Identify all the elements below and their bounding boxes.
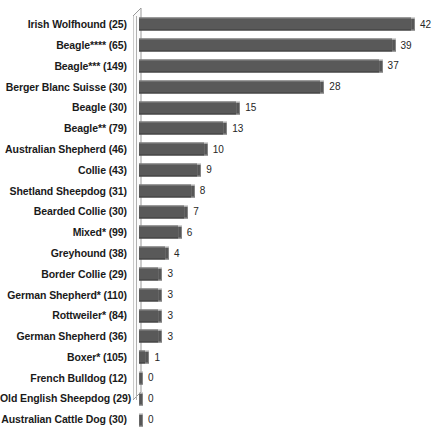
- bar-value-label: 0: [148, 394, 154, 404]
- chart-row: Shetland Sheepdog (31)8: [0, 180, 441, 201]
- bar[interactable]: [139, 330, 158, 343]
- bar-track: 42: [133, 14, 441, 35]
- bar-track: 0: [133, 388, 441, 409]
- bar-track: 28: [133, 76, 441, 97]
- bar[interactable]: [139, 39, 392, 52]
- bar-value-label: 42: [420, 19, 431, 29]
- bar-value-label: 8: [200, 186, 206, 196]
- chart-row: Border Collie (29)3: [0, 264, 441, 285]
- bar-track: 0: [133, 409, 441, 430]
- category-label: French Bulldog (12): [0, 373, 133, 384]
- category-label: Irish Wolfhound (25): [0, 19, 133, 30]
- chart-row: Mixed* (99)6: [0, 222, 441, 243]
- category-label: Shetland Sheepdog (31): [0, 186, 133, 197]
- bar-end-cap: [236, 101, 240, 114]
- category-label: Old English Sheepdog (29): [0, 393, 133, 404]
- category-label: Beagle** (79): [0, 123, 133, 134]
- category-label: Rottweiler* (84): [0, 310, 133, 321]
- category-label: Greyhound (38): [0, 248, 133, 259]
- bar-end-cap: [165, 247, 169, 260]
- bar[interactable]: [139, 143, 204, 156]
- category-label: Mixed* (99): [0, 227, 133, 238]
- bar-value-label: 39: [401, 40, 412, 50]
- bar[interactable]: [139, 351, 145, 364]
- bar[interactable]: [139, 184, 191, 197]
- bar-end-cap: [204, 143, 208, 156]
- bar-value-label: 6: [187, 227, 193, 237]
- bar-value-label: 7: [193, 207, 199, 217]
- bar[interactable]: [139, 309, 158, 322]
- bar-end-cap: [139, 392, 143, 405]
- bar-track: 7: [133, 201, 441, 222]
- bar-end-cap: [184, 205, 188, 218]
- bar-value-label: 37: [388, 61, 399, 71]
- bar[interactable]: [139, 205, 184, 218]
- category-label: Australian Shepherd (46): [0, 144, 133, 155]
- chart-row: Beagle (30)15: [0, 97, 441, 118]
- chart-row: Beagle** (79)13: [0, 118, 441, 139]
- bar[interactable]: [139, 18, 411, 31]
- bar-value-label: 0: [148, 415, 154, 425]
- chart-row: Berger Blanc Suisse (30)28: [0, 76, 441, 97]
- bar-track: 3: [133, 305, 441, 326]
- bar-track: 15: [133, 97, 441, 118]
- bar[interactable]: [139, 247, 165, 260]
- bar[interactable]: [139, 163, 197, 176]
- category-label: Boxer* (105): [0, 352, 133, 363]
- chart-row: Beagle**** (65)39: [0, 35, 441, 56]
- category-label: Bearded Collie (30): [0, 206, 133, 217]
- bar-end-cap: [379, 59, 383, 72]
- bar-value-label: 28: [329, 82, 340, 92]
- bar-track: 6: [133, 222, 441, 243]
- bar-end-cap: [158, 267, 162, 280]
- category-label: Beagle**** (65): [0, 40, 133, 51]
- category-label: Beagle (30): [0, 102, 133, 113]
- bar-value-label: 9: [206, 165, 212, 175]
- category-label: Australian Cattle Dog (30): [0, 414, 133, 425]
- bar-value-label: 13: [232, 123, 243, 133]
- bar-track: 13: [133, 118, 441, 139]
- chart-row: German Shepherd (36)3: [0, 326, 441, 347]
- bar-track: 37: [133, 56, 441, 77]
- bar-track: 10: [133, 139, 441, 160]
- bar-value-label: 0: [148, 373, 154, 383]
- bar-track: 1: [133, 347, 441, 368]
- bar[interactable]: [139, 288, 158, 301]
- bar-track: 8: [133, 180, 441, 201]
- bar-end-cap: [158, 309, 162, 322]
- bar[interactable]: [139, 267, 158, 280]
- chart-row: Boxer* (105)1: [0, 347, 441, 368]
- chart-row: Collie (43)9: [0, 160, 441, 181]
- bar-value-label: 4: [174, 248, 180, 258]
- category-label: Berger Blanc Suisse (30): [0, 82, 133, 93]
- bar-end-cap: [158, 288, 162, 301]
- bar[interactable]: [139, 59, 379, 72]
- bar-value-label: 10: [213, 144, 224, 154]
- category-label: German Shepherd* (110): [0, 290, 133, 301]
- bar[interactable]: [139, 101, 236, 114]
- bar[interactable]: [139, 122, 223, 135]
- bar-end-cap: [191, 184, 195, 197]
- chart-row: Greyhound (38)4: [0, 243, 441, 264]
- bar-value-label: 3: [167, 311, 173, 321]
- chart-rows: Irish Wolfhound (25)42Beagle**** (65)39B…: [0, 14, 441, 430]
- bar-track: 39: [133, 35, 441, 56]
- bar[interactable]: [139, 80, 320, 93]
- category-label: Beagle*** (149): [0, 61, 133, 72]
- bar-end-cap: [139, 413, 143, 426]
- bar-end-cap: [178, 226, 182, 239]
- bar-track: 3: [133, 326, 441, 347]
- chart-row: French Bulldog (12)0: [0, 368, 441, 389]
- chart-row: Bearded Collie (30)7: [0, 201, 441, 222]
- chart-row: Australian Cattle Dog (30)0: [0, 409, 441, 430]
- chart-row: Rottweiler* (84)3: [0, 305, 441, 326]
- chart-row: Beagle*** (149)37: [0, 56, 441, 77]
- bar-track: 3: [133, 284, 441, 305]
- bar-end-cap: [411, 18, 415, 31]
- bar[interactable]: [139, 226, 178, 239]
- bar-end-cap: [139, 371, 143, 384]
- bar-end-cap: [197, 163, 201, 176]
- bar-value-label: 3: [167, 269, 173, 279]
- bar-value-label: 3: [167, 290, 173, 300]
